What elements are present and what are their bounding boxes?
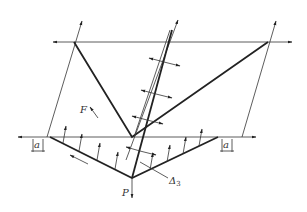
force-f-arrow — [90, 107, 98, 118]
slide-direction-arrow — [70, 155, 88, 164]
delta-leader-line — [140, 162, 168, 178]
center-inclined-line-1 — [126, 20, 178, 160]
force-f-label: F — [79, 104, 88, 115]
center-arrow-pairs — [126, 58, 180, 155]
dimension-right-label: a — [223, 139, 229, 150]
upper-v-heavy-line — [74, 42, 268, 137]
center-inclined-heavy-line — [132, 30, 172, 178]
right-slanted-line — [242, 21, 276, 137]
delta-label: Δ3 — [168, 175, 181, 188]
mechanics-diagram: F P Δ3 a a — [0, 0, 307, 212]
left-slanted-line — [47, 21, 82, 137]
load-p-label: P — [121, 187, 129, 198]
dimension-left-label: a — [34, 139, 40, 150]
lower-v-right-arrows — [150, 129, 202, 170]
